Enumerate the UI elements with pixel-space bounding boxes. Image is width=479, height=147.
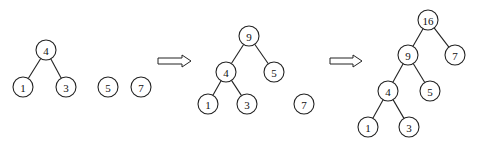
tree-node-9: 9: [398, 45, 418, 65]
tree-node-5: 5: [98, 77, 118, 97]
node-label: 9: [246, 31, 252, 43]
node-label: 5: [271, 67, 277, 79]
tree-node-4: 4: [36, 40, 56, 60]
node-label: 4: [385, 86, 391, 98]
node-label: 9: [405, 50, 411, 62]
node-label: 16: [423, 15, 435, 27]
node-label: 7: [138, 82, 144, 94]
tree-node-7: 7: [294, 94, 314, 114]
tree-edge: [413, 29, 423, 47]
double-right-arrow-icon: [330, 55, 362, 67]
tree-node-1: 1: [358, 117, 378, 137]
node-label: 4: [223, 67, 229, 79]
tree-node-5: 5: [264, 62, 284, 82]
node-label: 5: [427, 86, 433, 98]
node-label: 3: [244, 99, 250, 111]
huffman-diagram: 4135794513716974513: [0, 0, 479, 147]
node-label: 4: [43, 45, 49, 57]
tree-edge: [231, 80, 241, 95]
tree-node-1: 1: [13, 77, 33, 97]
tree-node-5: 5: [420, 81, 440, 101]
tree-node-3: 3: [237, 94, 257, 114]
tree-edge: [393, 100, 404, 119]
tree-edge: [28, 58, 40, 78]
node-label: 3: [63, 82, 69, 94]
tree-node-3: 3: [56, 77, 76, 97]
node-label: 7: [452, 50, 458, 62]
node-label: 7: [301, 99, 307, 111]
tree-edge: [393, 64, 403, 83]
tree-node-1: 1: [198, 94, 218, 114]
tree-node-7: 7: [445, 45, 465, 65]
tree-edge: [231, 44, 243, 63]
tree-edge: [213, 81, 221, 96]
node-label: 3: [406, 122, 412, 134]
tree-edge: [413, 64, 425, 83]
node-label: 1: [205, 99, 211, 111]
tree-edge: [434, 28, 449, 47]
tree-node-9: 9: [239, 26, 259, 46]
double-right-arrow-icon: [158, 55, 191, 67]
tree-node-16: 16: [418, 10, 438, 30]
tree-node-4: 4: [216, 62, 236, 82]
tree-node-7: 7: [131, 77, 151, 97]
tree-edge: [51, 59, 61, 78]
node-label: 1: [20, 82, 26, 94]
node-label: 1: [365, 122, 371, 134]
node-label: 5: [105, 82, 111, 94]
tree-edge: [373, 100, 383, 119]
arrows-layer: [158, 55, 362, 67]
tree-node-3: 3: [399, 117, 419, 137]
tree-node-4: 4: [378, 81, 398, 101]
tree-edge: [255, 44, 269, 64]
